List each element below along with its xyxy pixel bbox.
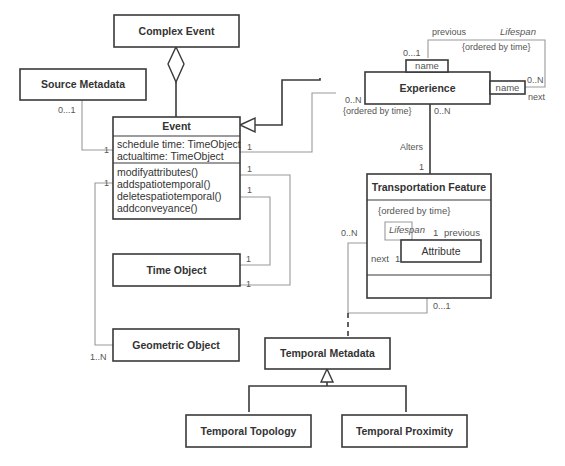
ordered-constraint: {ordered by time}: [378, 205, 450, 216]
mult-time-2: 1: [246, 279, 251, 289]
generalization-arrow-icon: [240, 118, 255, 132]
class-experience[interactable]: Experience name name: [365, 60, 525, 104]
class-source-metadata[interactable]: Source Metadata: [20, 69, 146, 100]
experience-event-generalization: [255, 78, 320, 125]
qualifier-name: name: [496, 82, 520, 93]
metadata-generalization-lines: [249, 386, 406, 412]
class-title: Time Object: [147, 264, 207, 276]
event-attribute: actualtime: TimeObject: [117, 150, 224, 162]
previous-label: previous: [444, 227, 480, 238]
mult-event-source: 1: [104, 145, 109, 155]
mult-event-experience: 1: [247, 142, 252, 152]
mult-experience-next: 0..N: [527, 75, 544, 85]
experience-lifespan-label: Lifespan: [500, 26, 536, 37]
class-temporal-topology[interactable]: Temporal Topology: [186, 415, 311, 447]
class-title: Temporal Metadata: [280, 347, 375, 359]
event-attribute: schedule time: TimeObject: [117, 138, 241, 150]
class-title: Attribute: [421, 245, 460, 257]
qualifier-name: name: [415, 60, 439, 71]
class-title: Temporal Topology: [201, 425, 297, 437]
class-title: Transportation Feature: [372, 181, 487, 193]
class-title: Temporal Proximity: [356, 425, 453, 437]
source-event-association: [82, 100, 113, 150]
event-time-association-2: [240, 197, 270, 265]
event-geometric-association: [95, 183, 113, 345]
class-title: Experience: [399, 82, 455, 94]
mult-experience-down: 0..N: [434, 106, 451, 116]
event-operation: addspatiotemporal(): [117, 178, 210, 190]
mult-time-1: 1: [246, 254, 251, 264]
class-temporal-metadata[interactable]: Temporal Metadata: [265, 338, 390, 369]
event-operation: modifyattributes(): [117, 166, 198, 178]
mult-next: 1: [395, 253, 400, 264]
mult-geo: 1..N: [90, 352, 107, 362]
experience-previous-label: previous: [432, 27, 467, 37]
class-title: Source Metadata: [41, 78, 125, 90]
lifespan-label: Lifespan: [389, 224, 425, 235]
mult-experience-previous: 0...1: [403, 48, 421, 58]
class-title: Geometric Object: [132, 339, 220, 351]
event-operation: addconveyance(): [117, 202, 198, 214]
mult-transport-left: 0..N: [341, 228, 358, 238]
mult-event-time-2: 1: [247, 185, 252, 195]
class-transportation-feature[interactable]: Transportation Feature {ordered by time}…: [367, 174, 491, 298]
class-time-object[interactable]: Time Object: [113, 254, 240, 286]
aggregation-diamond-icon: [168, 47, 184, 82]
mult-previous: 1: [433, 227, 438, 238]
class-temporal-proximity[interactable]: Temporal Proximity: [342, 415, 467, 447]
uml-diagram: Complex Event Source Metadata Event sche…: [0, 0, 565, 466]
generalization-arrow-icon-2: [321, 369, 333, 382]
mult-source: 0...1: [58, 105, 76, 115]
mult-event-time-1: 1: [247, 164, 252, 174]
class-event[interactable]: Event schedule time: TimeObject actualti…: [113, 117, 241, 219]
class-title: Complex Event: [139, 25, 215, 37]
class-geometric-object[interactable]: Geometric Object: [113, 329, 239, 361]
class-complex-event[interactable]: Complex Event: [114, 15, 239, 47]
alters-label: Alters: [400, 142, 424, 152]
experience-next-label: next: [528, 92, 546, 102]
next-label: next: [371, 253, 389, 264]
mult-alters: 1: [419, 162, 424, 172]
event-operation: deletespatiotemporal(): [117, 190, 221, 202]
experience-event-ordered: {ordered by time}: [343, 106, 412, 116]
mult-transport-bottom: 0...1: [433, 301, 451, 311]
experience-ordered-constraint: {ordered by time}: [462, 42, 531, 52]
class-title: Event: [162, 120, 191, 132]
mult-experience-event: 0..N: [345, 95, 362, 105]
mult-event-geo: 1: [104, 178, 109, 188]
